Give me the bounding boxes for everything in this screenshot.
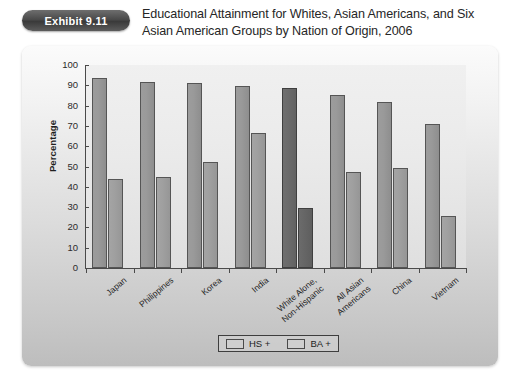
bar-hs	[282, 88, 297, 268]
x-axis-tick	[86, 268, 87, 273]
y-tick-label: 80	[67, 100, 78, 111]
x-axis-label: Vietnam	[430, 275, 461, 303]
bar-ba	[393, 168, 408, 268]
x-axis-tick	[276, 268, 277, 273]
chart-panel: 0102030405060708090100 Percentage JapanP…	[22, 46, 498, 366]
bar-ba	[441, 216, 456, 268]
bar-hs	[140, 82, 155, 268]
y-tick-label: 40	[67, 181, 78, 192]
x-axis-tick	[134, 268, 135, 273]
legend-label: BA +	[310, 338, 330, 349]
y-tick-label: 20	[67, 221, 78, 232]
x-axis-label: Japan	[104, 275, 129, 298]
x-axis-label: White Alone, Non-Hispanic	[272, 275, 325, 324]
bar-ba	[156, 177, 171, 268]
bar-ba	[298, 208, 313, 268]
y-tick-label: 50	[67, 161, 78, 172]
bar-ba	[251, 133, 266, 268]
x-axis-label: Korea	[199, 275, 223, 298]
bar-hs	[377, 102, 392, 268]
legend-item: HS +	[226, 338, 270, 349]
y-axis-line	[85, 65, 86, 269]
bar-hs	[187, 83, 202, 268]
chart-legend: HS +BA +	[218, 335, 339, 352]
x-axis-label: India	[250, 275, 271, 295]
x-axis-tick	[181, 268, 182, 273]
y-tick-label: 100	[62, 59, 78, 70]
y-tick-label: 60	[67, 140, 78, 151]
exhibit-header: Exhibit 9.11 Educational Attainment for …	[0, 0, 519, 52]
y-axis-title: Percentage	[47, 120, 58, 172]
bar-hs	[92, 78, 107, 268]
bar-hs	[235, 86, 250, 268]
exhibit-badge: Exhibit 9.11	[22, 10, 130, 31]
x-axis-label: Philippines	[137, 275, 176, 310]
x-axis-tick	[371, 268, 372, 273]
bar-ba	[203, 162, 218, 268]
bar-ba	[346, 172, 361, 268]
bar-hs	[425, 124, 440, 268]
y-tick-label: 30	[67, 201, 78, 212]
bar-hs	[330, 95, 345, 268]
x-axis-tick	[324, 268, 325, 273]
x-axis-tick	[419, 268, 420, 273]
y-tick-label: 0	[73, 262, 78, 273]
x-axis-label: China	[390, 275, 414, 297]
legend-item: BA +	[287, 338, 330, 349]
x-axis-tick	[229, 268, 230, 273]
y-tick-label: 10	[67, 242, 78, 253]
x-axis-tick	[466, 268, 467, 273]
bar-ba	[108, 179, 123, 268]
legend-label: HS +	[249, 338, 270, 349]
legend-swatch	[226, 339, 244, 349]
exhibit-title: Educational Attainment for Whites, Asian…	[142, 6, 502, 39]
x-axis-label: All Asian Americans	[328, 275, 373, 317]
legend-swatch	[287, 339, 305, 349]
y-tick-label: 90	[67, 79, 78, 90]
y-tick-label: 70	[67, 120, 78, 131]
